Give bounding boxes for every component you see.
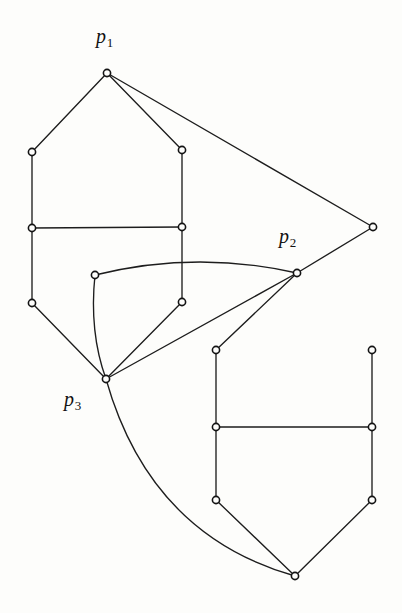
vertex-layer [28,69,376,579]
vertex-rB [368,346,375,353]
label-p3-base: p [64,388,74,410]
edge-rE-bot [216,500,295,576]
vertex-far [369,223,376,230]
label-p1-base: p [96,25,106,47]
label-p3: p3 [64,389,81,412]
edge-m1-p3 [93,275,106,379]
edge-rF-bot [295,500,372,576]
edge-lF-p3 [106,302,182,379]
figure-root: p1p2p3 [0,0,402,613]
edge-layer [32,73,373,576]
edge-lE-p3 [32,303,106,379]
vertex-p3 [102,375,109,382]
vertex-rD [368,423,375,430]
label-p1-subscript: 1 [106,35,113,50]
label-p1: p1 [96,26,113,49]
vertex-lE [28,299,35,306]
vertex-lF [178,298,185,305]
vertex-p2 [293,269,300,276]
label-p2: p2 [279,226,296,249]
label-p2-base: p [279,225,289,247]
edge-m1-p2 [95,262,297,275]
label-p3-subscript: 3 [74,398,81,413]
vertex-lD [178,223,185,230]
vertex-rE [212,496,219,503]
vertex-lA [28,148,35,155]
vertex-lB [178,146,185,153]
vertex-rC [212,423,219,430]
graph-canvas [0,0,402,613]
edge-p2-far [297,227,373,273]
vertex-rF [368,496,375,503]
vertex-p1 [103,69,110,76]
edge-p1-lA [32,73,107,152]
vertex-bot [291,572,298,579]
edge-p1-far [107,73,373,227]
edge-p1-lB [107,73,182,150]
edge-p3-bot [106,379,295,576]
vertex-m1 [91,271,98,278]
vertex-rA [212,346,219,353]
vertex-lC [28,224,35,231]
edge-lC-lD [32,227,182,228]
edge-p3-p2 [106,273,297,379]
label-p2-subscript: 2 [289,235,296,250]
